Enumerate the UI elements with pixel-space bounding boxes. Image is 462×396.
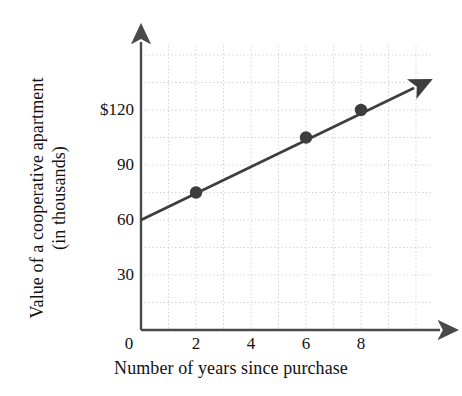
y-tick-label-120: $120 <box>62 100 134 120</box>
chart-plot-area <box>0 0 462 396</box>
data-point <box>300 131 312 143</box>
x-axis-title: Number of years since purchase <box>0 358 462 379</box>
y-tick-label-60: 60 <box>62 210 134 230</box>
x-tick-label-6: 6 <box>302 334 311 354</box>
data-point <box>190 186 202 198</box>
data-series-line <box>141 88 414 220</box>
x-tick-label-2: 2 <box>192 334 201 354</box>
x-tick-label-4: 4 <box>247 334 256 354</box>
data-point <box>355 104 367 116</box>
y-tick-label-90: 90 <box>62 155 134 175</box>
x-tick-label-8: 8 <box>357 334 366 354</box>
x-tick-label-0: 0 <box>125 334 134 354</box>
chart-figure: $120 90 60 30 0 2 4 6 8 Value of a coope… <box>0 0 462 396</box>
y-tick-label-30: 30 <box>62 265 134 285</box>
